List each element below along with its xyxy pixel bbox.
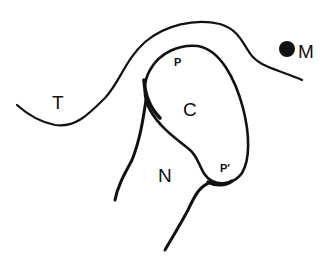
- label-c: C: [183, 99, 197, 120]
- anatomical-diagram: T M C N P P': [0, 0, 331, 262]
- label-p-prime: P': [220, 162, 230, 174]
- n-left-line: [115, 100, 146, 200]
- label-m: M: [298, 41, 314, 62]
- n-bottom-line: [165, 182, 212, 250]
- label-t: T: [52, 92, 64, 113]
- label-n: N: [158, 165, 172, 186]
- m-dot: [279, 41, 295, 57]
- label-p: P: [174, 56, 181, 68]
